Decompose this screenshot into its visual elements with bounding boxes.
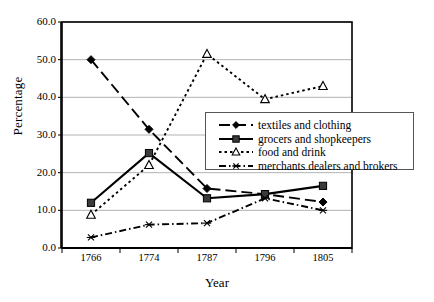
data-point-1-0 [87,199,94,206]
data-point-2-0 [87,210,96,218]
x-tick-label: 1805 [293,252,353,263]
legend-item-2: food and drink [206,145,415,159]
y-tick-label: 60.0 [14,16,56,27]
x-tick-label: 1796 [235,252,295,263]
data-point-1-1 [145,149,152,156]
legend-key-diamond-icon [206,118,258,132]
data-point-1-3 [261,191,268,198]
legend: textiles and clothinggrocers and shopkee… [205,112,414,170]
legend-key-open-triangle-icon [206,145,258,159]
y-tick-label: 10.0 [14,204,56,215]
legend-item-0: textiles and clothing [206,118,415,132]
data-point-0-4 [319,198,327,206]
data-point-2-4 [319,81,328,89]
y-tick-label: 40.0 [14,91,56,102]
data-point-1-2 [203,195,210,202]
x-tick-label: 1787 [177,252,237,263]
data-point-2-1 [145,161,154,169]
x-axis-label: Year [0,275,434,291]
y-tick-label: 0.0 [14,242,56,253]
data-point-1-4 [319,182,326,189]
series-line-3 [91,198,323,237]
legend-key-star-icon [206,159,258,173]
legend-label: merchants dealers and brokers [258,160,398,172]
legend-label: textiles and clothing [258,119,351,131]
y-tick-label: 20.0 [14,167,56,178]
legend-label: grocers and shopkeepers [258,133,371,145]
y-tick-label: 30.0 [14,129,56,140]
line-chart: Percentage Year 0.010.020.030.040.050.06… [0,0,434,302]
x-tick-label: 1766 [61,252,121,263]
data-point-2-2 [203,49,212,57]
y-tick-label: 50.0 [14,54,56,65]
legend-item-1: grocers and shopkeepers [206,132,415,146]
x-tick-label: 1774 [119,252,179,263]
legend-item-3: merchants dealers and brokers [206,159,415,173]
legend-label: food and drink [258,146,326,158]
legend-key-square-icon [206,132,258,146]
